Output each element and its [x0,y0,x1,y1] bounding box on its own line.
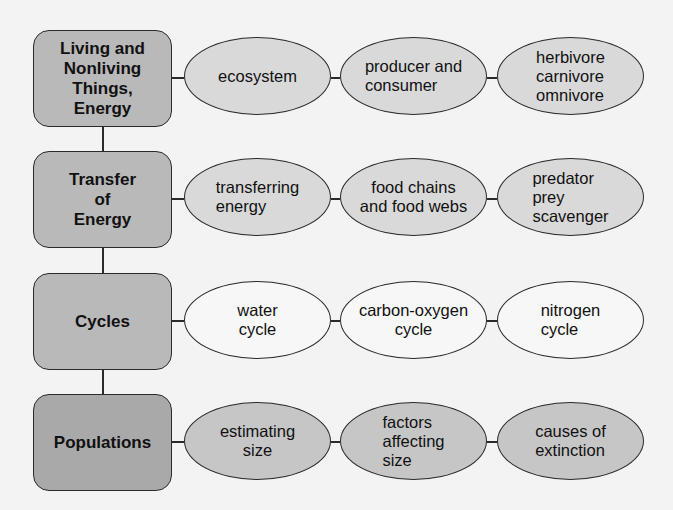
connector [172,198,184,200]
connector [487,198,497,200]
concept-label: causes of extinction [535,422,606,460]
concept-label: producer and consumer [365,57,462,95]
spine-connector-1 [102,127,104,151]
connector [172,441,184,443]
concept-label: ecosystem [218,67,297,86]
concept-ellipse: factors affecting size [340,402,487,480]
concept-ellipse: causes of extinction [497,402,644,480]
concept-ellipse: water cycle [184,281,331,359]
concept-label: herbivore carnivore omnivore [536,48,605,105]
topic-box: Living and Nonliving Things, Energy [33,30,172,127]
concept-ellipse: nitrogen cycle [497,281,644,359]
concept-label: estimating size [220,422,295,460]
concept-ellipse: herbivore carnivore omnivore [497,37,644,115]
connector [172,320,184,322]
connector [331,198,340,200]
concept-ellipse: predator prey scavenger [497,158,644,236]
concept-label: carbon-oxygen cycle [359,301,468,339]
connector [487,441,497,443]
connector [331,320,340,322]
concept-label: predator prey scavenger [532,169,608,226]
connector [487,77,497,79]
connector [331,77,340,79]
connector [331,441,340,443]
concept-ellipse: estimating size [184,402,331,480]
concept-label: factors affecting size [382,413,444,470]
concept-ellipse: food chains and food webs [340,158,487,236]
concept-label: food chains and food webs [360,178,467,216]
spine-connector-3 [102,370,104,394]
topic-box: Populations [33,394,172,491]
concept-label: transferring energy [216,178,299,216]
spine-connector-2 [102,248,104,273]
connector [487,320,497,322]
concept-label: water cycle [237,301,277,339]
connector [172,77,184,79]
concept-ellipse: producer and consumer [340,37,487,115]
concept-ellipse: ecosystem [184,37,331,115]
concept-label: nitrogen cycle [541,301,601,339]
concept-ellipse: carbon-oxygen cycle [340,281,487,359]
topic-box: Transfer of Energy [33,151,172,248]
topic-box: Cycles [33,273,172,370]
concept-ellipse: transferring energy [184,158,331,236]
